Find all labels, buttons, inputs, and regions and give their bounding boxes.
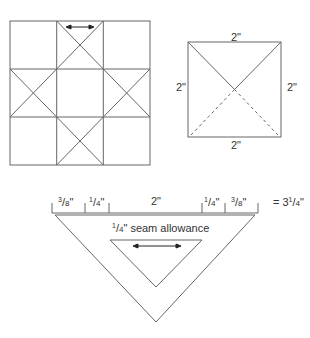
grain-arrow-icon — [66, 25, 94, 29]
star-point-triangles — [10, 21, 150, 165]
diagram-canvas — [0, 0, 310, 338]
template-grain-arrow-icon — [133, 244, 181, 248]
square-top-label: 2" — [231, 32, 241, 43]
segment-label-1-4-left: 1/4" — [89, 196, 104, 208]
square-left-label: 2" — [176, 82, 186, 93]
segment-label-1-4-right: 1/4" — [204, 196, 219, 208]
unit-square — [188, 42, 281, 137]
quilt-block-grid — [10, 21, 150, 165]
cutting-template — [52, 203, 258, 322]
segment-label-3-8-right: 3/8" — [231, 196, 246, 208]
seam-allowance-label: 1/4" seam allowance — [112, 222, 209, 234]
segment-label-2: 2" — [151, 196, 161, 207]
square-bottom-label: 2" — [231, 140, 241, 151]
total-width-label: = 31/4" — [273, 196, 304, 208]
segment-label-3-8-left: 3/8" — [58, 196, 73, 208]
square-right-label: 2" — [287, 82, 297, 93]
